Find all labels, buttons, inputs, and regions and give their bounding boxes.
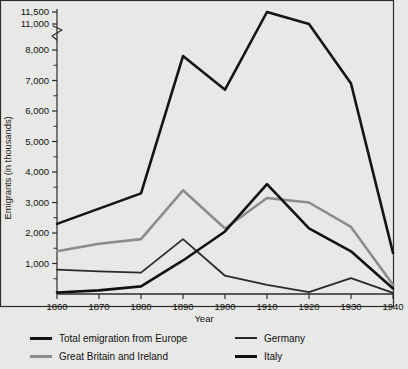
legend-label: Great Britain and Ireland bbox=[59, 351, 168, 362]
x-axis-tick-label: 1940 bbox=[371, 301, 408, 312]
legend-label: Total emigration from Europe bbox=[59, 333, 187, 344]
legend-item[interactable]: Total emigration from Europe bbox=[30, 330, 187, 346]
emigration-line-chart: Emigrants (in thousands) Year Total emig… bbox=[0, 0, 408, 369]
y-axis-tick-label: 5,000 bbox=[0, 136, 49, 147]
y-axis-tick-label: 2,000 bbox=[0, 227, 49, 238]
legend-item[interactable]: Italy bbox=[235, 348, 282, 364]
y-axis-tick-label: 8,000 bbox=[0, 44, 49, 55]
x-axis-label: Year bbox=[0, 313, 408, 324]
series-line-0 bbox=[57, 12, 393, 253]
chart-frame bbox=[1, 1, 394, 307]
legend-color-swatch bbox=[30, 337, 52, 340]
x-axis-tick-label: 1860 bbox=[35, 301, 79, 312]
x-axis-tick-label: 1880 bbox=[119, 301, 163, 312]
x-axis-tick-label: 1910 bbox=[245, 301, 289, 312]
y-axis-tick-label: 4,000 bbox=[0, 166, 49, 177]
legend-item[interactable]: Great Britain and Ireland bbox=[30, 348, 168, 364]
legend-color-swatch bbox=[235, 337, 257, 339]
x-axis-tick-label: 1900 bbox=[203, 301, 247, 312]
legend-color-swatch bbox=[235, 355, 257, 358]
y-axis-tick-label: 7,000 bbox=[0, 75, 49, 86]
legend-color-swatch bbox=[30, 355, 52, 358]
y-axis-tick-label: 1,000 bbox=[0, 258, 49, 269]
x-axis-tick-label: 1930 bbox=[329, 301, 373, 312]
x-axis-tick-label: 1870 bbox=[77, 301, 121, 312]
y-axis-tick-label: 11,500 bbox=[0, 6, 49, 17]
legend-label: Italy bbox=[264, 351, 282, 362]
y-axis-tick-label: 6,000 bbox=[0, 105, 49, 116]
legend-label: Germany bbox=[264, 333, 305, 344]
x-axis-tick-label: 1920 bbox=[287, 301, 331, 312]
legend-item[interactable]: Germany bbox=[235, 330, 305, 346]
x-axis-tick-label: 1890 bbox=[161, 301, 205, 312]
y-axis-tick-label: 11,000 bbox=[0, 18, 49, 29]
y-axis-tick-label: 3,000 bbox=[0, 197, 49, 208]
chart-legend: Total emigration from EuropeGreat Britai… bbox=[30, 330, 390, 366]
